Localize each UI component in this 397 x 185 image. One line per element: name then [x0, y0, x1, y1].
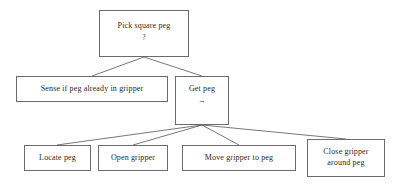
edge-getpeg-to-close	[202, 125, 346, 139]
node-locate-peg[interactable]: Locate peg	[24, 145, 91, 171]
edge-root-to-sense	[92, 57, 144, 76]
node-close-gripper-around-peg-label: Close gripper around peg	[323, 147, 368, 169]
node-get-peg-label: Get peg	[189, 84, 215, 95]
node-get-peg[interactable]: Get peg →	[175, 76, 229, 125]
node-pick-square-peg-sublabel: ?	[142, 33, 145, 42]
node-open-gripper[interactable]: Open gripper	[98, 145, 168, 171]
edge-root-to-getpeg	[144, 57, 202, 76]
edge-getpeg-to-open	[133, 125, 202, 145]
edge-getpeg-to-move	[202, 125, 239, 145]
node-sense-if-peg-already-in-gripper-label: Sense if peg already in gripper	[41, 84, 144, 95]
node-move-gripper-to-peg[interactable]: Move gripper to peg	[182, 145, 296, 171]
edge-getpeg-to-locate	[57, 125, 202, 145]
node-close-gripper-around-peg[interactable]: Close gripper around peg	[307, 139, 385, 177]
node-pick-square-peg-label: Pick square peg	[118, 21, 171, 32]
node-get-peg-sublabel: →	[198, 96, 206, 105]
node-pick-square-peg[interactable]: Pick square peg ?	[99, 10, 189, 57]
node-sense-if-peg-already-in-gripper[interactable]: Sense if peg already in gripper	[16, 76, 168, 102]
task-decomposition-diagram: Pick square peg ? Sense if peg already i…	[0, 0, 397, 185]
node-locate-peg-label: Locate peg	[39, 153, 76, 164]
node-move-gripper-to-peg-label: Move gripper to peg	[205, 153, 273, 164]
node-open-gripper-label: Open gripper	[111, 153, 155, 164]
